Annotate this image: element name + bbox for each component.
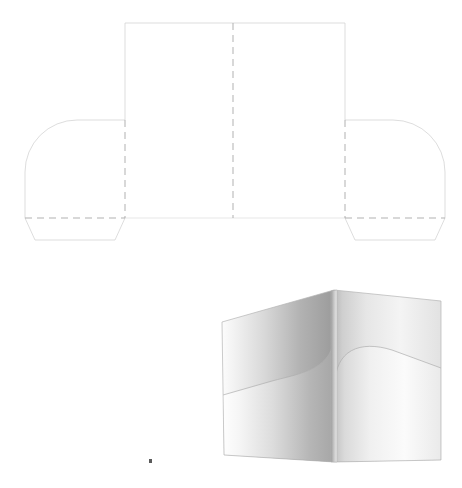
stray-mark [149, 459, 152, 463]
preview-right-pocket [334, 346, 441, 462]
left-flap-bottom-taper-cut [25, 218, 125, 240]
preview-left-half [222, 290, 334, 462]
left-flap-rounded-cut [25, 120, 125, 218]
preview-group [222, 290, 441, 462]
preview-spine [331, 290, 337, 462]
right-flap-bottom-taper-cut [345, 218, 445, 240]
right-flap-rounded-cut [345, 120, 445, 218]
dieline-group [25, 23, 445, 240]
preview-right-half [334, 290, 441, 462]
drawing-canvas: Presentation Folder Dieline and 3D Previ… [0, 0, 462, 488]
folder-illustration [0, 0, 462, 488]
